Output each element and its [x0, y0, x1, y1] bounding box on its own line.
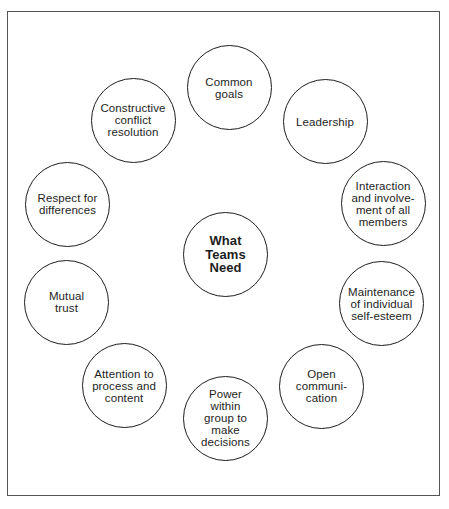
- center-node-label: What Teams Need: [205, 234, 246, 275]
- node-interaction: Interaction and involve- ment of all mem…: [341, 161, 426, 246]
- node-constructive-conflict: Constructive conflict resolution: [91, 78, 176, 163]
- node-mutual-trust: Mutual trust: [24, 260, 109, 345]
- node-label: Common goals: [205, 76, 252, 100]
- node-label: Power within group to make decisions: [201, 388, 250, 448]
- node-label: Attention to process and content: [92, 368, 156, 404]
- node-label: Interaction and involve- ment of all mem…: [351, 180, 414, 228]
- node-label: Constructive conflict resolution: [100, 102, 165, 138]
- node-maintenance: Maintenance of individual self-esteem: [339, 261, 424, 346]
- node-respect-for-differences: Respect for differences: [25, 162, 110, 247]
- node-label: Respect for differences: [38, 192, 98, 216]
- node-power-within-group: Power within group to make decisions: [183, 376, 268, 461]
- node-label: Mutual trust: [49, 290, 84, 314]
- node-open-communication: Open communi- cation: [279, 344, 364, 429]
- node-attention-to-process: Attention to process and content: [82, 343, 167, 428]
- node-label: Leadership: [296, 116, 354, 128]
- node-label: Open communi- cation: [296, 368, 347, 404]
- node-label: Maintenance of individual self-esteem: [348, 286, 415, 322]
- center-node-what-teams-need: What Teams Need: [183, 212, 268, 297]
- node-leadership: Leadership: [283, 79, 368, 164]
- node-common-goals: Common goals: [187, 45, 272, 130]
